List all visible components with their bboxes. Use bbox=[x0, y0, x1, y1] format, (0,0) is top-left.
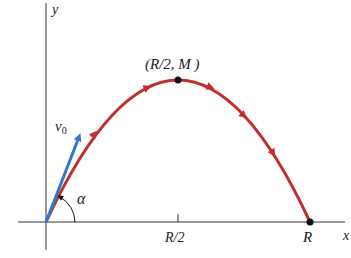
y-axis-label: y bbox=[50, 2, 59, 17]
peak-label: (R/2, M ) bbox=[145, 56, 200, 73]
projectile-diagram: y x R/2 v0 α (R/2, M ) R bbox=[0, 0, 351, 258]
half-range-label: R/2 bbox=[164, 230, 184, 245]
initial-velocity-arrow bbox=[46, 137, 79, 222]
angle-label: α bbox=[77, 190, 86, 207]
arrowhead-icon bbox=[143, 82, 153, 92]
angle-arc bbox=[60, 197, 75, 222]
velocity-label: v0 bbox=[55, 118, 67, 136]
x-axis-label: x bbox=[342, 228, 350, 243]
range-point bbox=[307, 219, 314, 226]
range-label: R bbox=[302, 229, 312, 245]
peak-point bbox=[175, 77, 182, 84]
